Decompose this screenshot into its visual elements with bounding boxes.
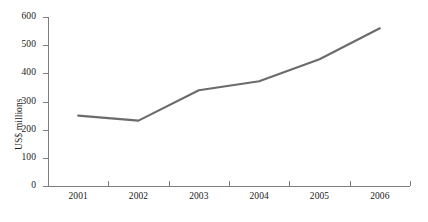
- series-layer: [0, 0, 428, 222]
- line-chart: US$ millions 0100200300400500600 2001200…: [0, 0, 428, 222]
- series-line: [78, 28, 380, 120]
